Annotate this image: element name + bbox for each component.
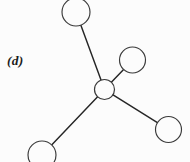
bond-central-to-upper-right xyxy=(111,69,124,82)
figure-panel: (d) xyxy=(0,0,190,162)
molecule-diagram xyxy=(0,0,190,162)
bond-central-to-lower-right xyxy=(113,95,158,123)
bond-central-to-top xyxy=(81,25,102,81)
atom-group xyxy=(28,0,182,162)
atom-node-lower-right xyxy=(156,117,182,143)
atom-node-top xyxy=(62,0,90,26)
atom-node-upper-right xyxy=(120,47,146,73)
bond-central-to-lower-left xyxy=(51,96,97,145)
panel-label: (d) xyxy=(7,54,23,68)
atom-node-central xyxy=(95,80,115,100)
